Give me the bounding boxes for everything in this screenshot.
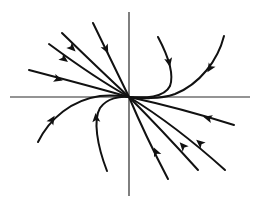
trajectory-bl-2 xyxy=(96,97,129,171)
phase-portrait-diagram xyxy=(0,0,258,200)
trajectory-br-1 xyxy=(129,97,234,125)
trajectory-tr-1 xyxy=(129,37,171,97)
arrowhead-icon xyxy=(46,114,58,126)
arrowhead-icon xyxy=(101,44,112,56)
trajectories-group xyxy=(29,23,234,179)
trajectory-br-3 xyxy=(129,97,198,170)
